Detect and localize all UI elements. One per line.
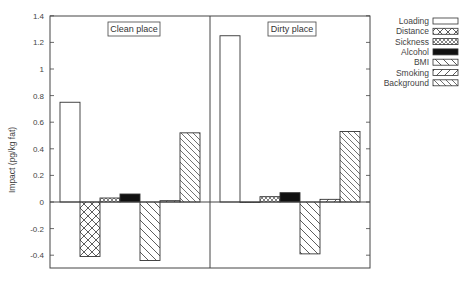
legend-label: Sickness xyxy=(395,37,429,47)
bar-bmi-dirty xyxy=(300,202,320,254)
legend-swatch-bmi xyxy=(433,59,458,65)
legend-label: BMI xyxy=(414,57,429,67)
legend-label: Background xyxy=(384,78,430,88)
bar-distance-clean xyxy=(80,202,100,257)
bar-alcohol-dirty xyxy=(280,193,300,202)
y-tick-label: 1.4 xyxy=(33,12,45,21)
y-tick-label: 1 xyxy=(40,65,45,74)
y-tick-label: -0.4 xyxy=(30,251,44,260)
legend-swatch-background xyxy=(433,80,458,86)
panel-title-clean: Clean place xyxy=(108,22,160,36)
bar-background-dirty xyxy=(340,132,360,202)
bar-alcohol-clean xyxy=(120,194,140,202)
y-tick-label: 0.2 xyxy=(33,171,45,180)
bar-loading-dirty xyxy=(220,36,240,202)
y-tick-label: 0.8 xyxy=(33,92,45,101)
bar-background-clean xyxy=(180,133,200,202)
legend-label: Distance xyxy=(396,26,429,36)
legend-swatch-sickness xyxy=(433,39,458,45)
svg-text:Clean place: Clean place xyxy=(110,24,158,34)
legend-label: Loading xyxy=(399,16,430,26)
y-tick-label: 0.6 xyxy=(33,118,45,127)
svg-text:Dirty place: Dirty place xyxy=(271,24,314,34)
bar-sickness-clean xyxy=(100,198,120,202)
y-tick-label: -0.2 xyxy=(30,225,44,234)
chart: Impact (pg/kg fat) 1.41.210.80.60.40.20-… xyxy=(0,0,470,281)
legend-label: Alcohol xyxy=(401,47,429,57)
legend-swatch-loading xyxy=(433,18,458,24)
y-tick-label: 0 xyxy=(40,198,45,207)
y-tick-label: 1.2 xyxy=(33,38,45,47)
bar-bmi-clean xyxy=(140,202,160,261)
bar-sickness-dirty xyxy=(260,197,280,202)
legend-swatch-smoking xyxy=(433,70,458,76)
y-axis-label: Impact (pg/kg fat) xyxy=(7,127,17,193)
legend-swatch-distance xyxy=(433,28,458,34)
y-tick-label: 0.4 xyxy=(33,145,45,154)
legend-label: Smoking xyxy=(396,68,429,78)
legend-swatch-alcohol xyxy=(433,49,458,55)
legend: LoadingDistanceSicknessAlcoholBMISmoking… xyxy=(384,16,458,88)
bar-loading-clean xyxy=(60,102,80,202)
panel-title-dirty: Dirty place xyxy=(268,22,316,36)
